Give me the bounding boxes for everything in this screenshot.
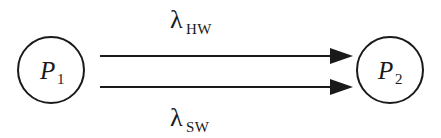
state-subscript-p1: 1 xyxy=(57,71,65,87)
rate-symbol-sw: λ xyxy=(170,103,183,132)
arrowhead-sw-icon xyxy=(330,79,353,95)
transition-arrow-hw[interactable] xyxy=(100,48,353,64)
rate-label-hw: λ HW xyxy=(170,5,212,37)
arrowhead-hw-icon xyxy=(330,48,353,64)
rate-label-sw: λ SW xyxy=(170,103,210,135)
state-symbol-p2: P xyxy=(377,57,393,84)
transition-diagram: P 1 P 2 λ HW λ SW xyxy=(0,0,441,138)
state-node-p1[interactable]: P 1 xyxy=(18,37,84,103)
rate-symbol-hw: λ xyxy=(170,5,183,34)
transition-arrow-sw[interactable] xyxy=(100,79,353,95)
diagram-svg: P 1 P 2 λ HW λ SW xyxy=(0,0,441,138)
rate-subscript-sw: SW xyxy=(186,119,210,135)
state-symbol-p1: P xyxy=(39,57,55,84)
rate-subscript-hw: HW xyxy=(186,21,212,37)
state-node-p2[interactable]: P 2 xyxy=(357,37,423,103)
state-subscript-p2: 2 xyxy=(395,71,403,87)
